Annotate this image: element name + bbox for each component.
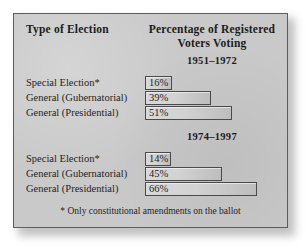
row-label-general-gubernatorial: General (Gubernatorial) bbox=[26, 166, 127, 181]
bar-general-presidential: 66% bbox=[145, 182, 257, 196]
column-header-percentage: Percentage of Registered Voters Voting bbox=[142, 23, 282, 50]
column-header-percentage-line2: Voters Voting bbox=[142, 37, 282, 51]
column-header-type-of-election: Type of Election bbox=[26, 23, 109, 35]
row-label-special-election: Special Election* bbox=[26, 75, 100, 90]
bar-value-label: 14% bbox=[149, 153, 168, 165]
bar-value-label: 66% bbox=[149, 183, 168, 195]
bar-value-label: 45% bbox=[149, 168, 168, 180]
chart-row: Special Election* 14% bbox=[14, 151, 287, 166]
bar-general-presidential: 51% bbox=[145, 106, 232, 120]
bar-general-gubernatorial: 39% bbox=[145, 91, 211, 105]
row-label-general-gubernatorial: General (Gubernatorial) bbox=[26, 90, 127, 105]
chart-row: General (Presidential) 51% bbox=[14, 105, 287, 120]
bar-group-1951-1972: Special Election* 16% General (Gubernato… bbox=[14, 75, 287, 120]
row-label-general-presidential: General (Presidential) bbox=[26, 181, 118, 196]
chart-panel: Type of Election Percentage of Registere… bbox=[13, 13, 288, 228]
period-heading-1951-1972: 1951–1972 bbox=[142, 55, 282, 66]
chart-footnote: * Only constitutional amendments on the … bbox=[14, 206, 287, 216]
bar-special-election: 16% bbox=[145, 76, 172, 90]
bar-special-election: 14% bbox=[145, 152, 171, 166]
row-label-general-presidential: General (Presidential) bbox=[26, 105, 118, 120]
chart-row: General (Gubernatorial) 45% bbox=[14, 166, 287, 181]
chart-row: General (Presidential) 66% bbox=[14, 181, 287, 196]
row-label-special-election: Special Election* bbox=[26, 151, 100, 166]
column-header-percentage-line1: Percentage of Registered bbox=[142, 23, 282, 37]
chart-row: Special Election* 16% bbox=[14, 75, 287, 90]
period-heading-1974-1997: 1974–1997 bbox=[142, 131, 282, 142]
bar-general-gubernatorial: 45% bbox=[145, 167, 222, 181]
figure-page: Type of Election Percentage of Registere… bbox=[0, 0, 308, 247]
bar-value-label: 51% bbox=[149, 107, 168, 119]
bar-value-label: 39% bbox=[149, 92, 168, 104]
chart-panel-inner: Type of Election Percentage of Registere… bbox=[14, 14, 287, 227]
bar-value-label: 16% bbox=[149, 77, 168, 89]
bar-group-1974-1997: Special Election* 14% General (Gubernato… bbox=[14, 151, 287, 196]
chart-row: General (Gubernatorial) 39% bbox=[14, 90, 287, 105]
